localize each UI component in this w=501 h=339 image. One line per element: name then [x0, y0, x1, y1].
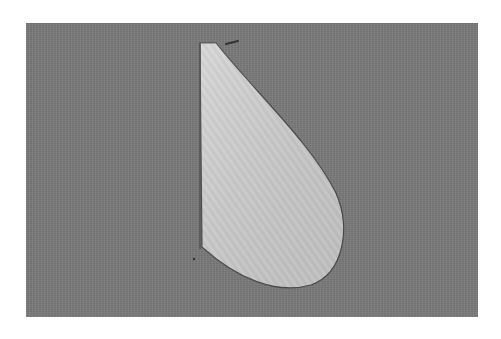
pin-mark [226, 41, 238, 44]
pin-mark [193, 258, 195, 260]
fabric-pattern-piece [26, 23, 478, 317]
photo [26, 23, 478, 317]
